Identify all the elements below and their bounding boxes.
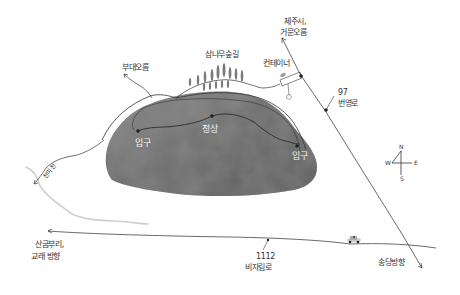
label-budae-oreum: 부대오름 xyxy=(122,63,149,73)
label-entrance-left: 입구 xyxy=(135,138,150,148)
label-road-1112-name: 비자림로 xyxy=(245,263,272,273)
compass-east: E xyxy=(414,159,418,166)
car-icon xyxy=(347,236,361,243)
label-container: 컨테이너 xyxy=(263,59,290,69)
container-marker xyxy=(280,72,302,99)
path-to-budae xyxy=(124,74,152,98)
road-1112-bijarim xyxy=(48,231,436,248)
label-road-1112-number: 1112 xyxy=(256,252,275,262)
label-road-97-name: 번영로 xyxy=(338,99,358,109)
compass-south: S xyxy=(400,175,404,182)
label-jeju-city: 제주시, xyxy=(284,17,306,27)
label-road-97-number: 97 xyxy=(338,88,348,98)
label-sangumburi: 산굼부리, xyxy=(35,240,64,250)
hand-drawn-map xyxy=(0,0,460,295)
label-summit: 정상 xyxy=(202,124,217,134)
label-cedar-trail: 삼나무숲길 xyxy=(205,50,239,60)
compass-north: N xyxy=(399,143,404,150)
label-gyorae-direction: 교래 방향 xyxy=(31,252,60,262)
label-entrance-right: 입구 xyxy=(292,151,307,161)
compass xyxy=(392,151,412,175)
compass-west: W xyxy=(385,159,391,166)
label-geomun-oreum: 거문오름 xyxy=(280,28,307,38)
cedar-trees xyxy=(189,63,244,91)
label-songdang-direction: 송당방향 xyxy=(378,258,405,268)
